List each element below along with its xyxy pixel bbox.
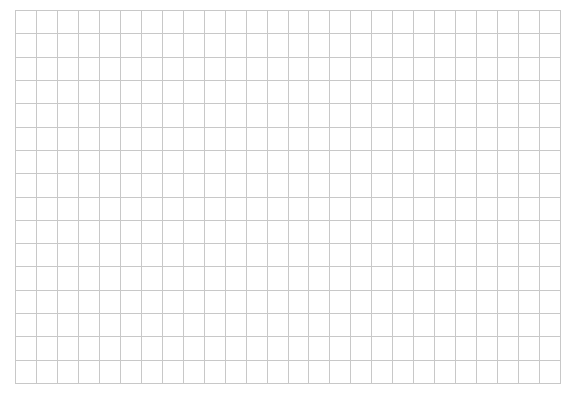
- grid-lines: [15, 10, 561, 384]
- graph-paper-grid: [15, 10, 561, 384]
